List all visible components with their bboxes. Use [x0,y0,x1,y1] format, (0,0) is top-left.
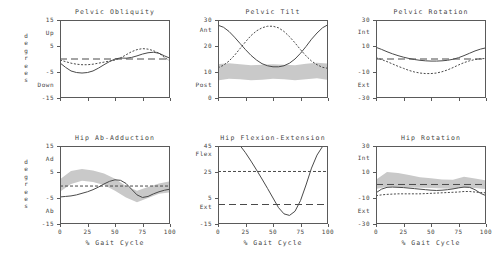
x-axis-title-hip-ab-adduction: % Gait Cycle [60,239,170,247]
x-axis-title-hip-flexion-extension: % Gait Cycle [218,239,328,247]
y-tick-hip-flexion-extension-2 [215,172,218,173]
x-tick-label-hip-ab-adduction-3: 75 [131,228,155,235]
x-tick-hip-flexion-extension-2 [273,224,274,227]
y-tick-label-hip-rotation-0: -30 [340,220,370,227]
subplot-title-pelvic-tilt: Pelvic Tilt [218,8,328,16]
y-tick-hip-ab-adduction-3 [57,146,60,147]
y-direction-label-pos-pelvic-rotation: Int [340,28,370,35]
plot-area-pelvic-obliquity [60,20,170,98]
series-contralateral-side-pelvic-tilt [219,26,327,68]
plot-canvas-pelvic-rotation [377,21,485,97]
y-tick-label-pelvic-tilt-0: 0 [182,94,212,101]
y-tick-label-pelvic-rotation-3: 30 [340,16,370,23]
x-tick-label-hip-rotation-4: 100 [474,228,496,235]
y-tick-label-hip-flexion-extension-0: -15 [182,220,212,227]
x-tick-hip-ab-adduction-0 [60,224,61,227]
x-tick-label-hip-ab-adduction-1: 25 [76,228,100,235]
y-direction-label-neg-pelvic-rotation: Ext [340,81,370,88]
x-tick-pelvic-tilt-2 [273,98,274,101]
y-tick-label-hip-flexion-extension-2: 25 [182,168,212,175]
x-tick-hip-rotation-0 [376,224,377,227]
x-tick-hip-rotation-2 [431,224,432,227]
y-direction-label-pos-hip-rotation: Int [340,154,370,161]
y-tick-label-pelvic-obliquity-3: 15 [24,16,54,23]
plot-area-hip-flexion-extension [218,146,328,224]
series-affected-side-hip-flexion-extension [219,147,327,215]
y-direction-label-neg-hip-rotation: Ext [340,207,370,214]
x-axis-title-hip-rotation: % Gait Cycle [376,239,486,247]
plot-area-hip-rotation [376,146,486,224]
x-tick-label-hip-rotation-2: 50 [419,228,443,235]
plot-area-hip-ab-adduction [60,146,170,224]
y-tick-pelvic-tilt-3 [215,20,218,21]
x-tick-pelvic-tilt-0 [218,98,219,101]
y-axis-group-label: d e g r e e s [22,32,30,84]
y-tick-label-pelvic-tilt-3: 30 [182,16,212,23]
x-tick-hip-rotation-4 [486,224,487,227]
x-tick-label-hip-flexion-extension-4: 100 [316,228,340,235]
x-tick-hip-flexion-extension-1 [246,224,247,227]
y-tick-pelvic-rotation-1 [373,72,376,73]
y-tick-label-hip-ab-adduction-0: -15 [24,220,54,227]
x-tick-pelvic-tilt-1 [246,98,247,101]
x-tick-hip-rotation-3 [459,224,460,227]
plot-canvas-pelvic-obliquity [61,21,169,97]
x-tick-pelvic-rotation-2 [431,98,432,101]
x-tick-label-hip-rotation-0: 0 [364,228,388,235]
subplot-title-hip-ab-adduction: Hip Ab-Adduction [60,134,170,142]
series-affected-side-pelvic-obliquity [61,52,169,73]
x-tick-hip-flexion-extension-4 [328,224,329,227]
x-tick-label-hip-flexion-extension-2: 50 [261,228,285,235]
x-tick-label-hip-flexion-extension-0: 0 [206,228,230,235]
x-tick-label-hip-rotation-1: 25 [392,228,416,235]
y-tick-hip-ab-adduction-1 [57,198,60,199]
y-tick-pelvic-tilt-2 [215,46,218,47]
x-tick-pelvic-rotation-1 [404,98,405,101]
x-tick-pelvic-obliquity-4 [170,98,171,101]
x-tick-hip-ab-adduction-3 [143,224,144,227]
y-tick-hip-ab-adduction-2 [57,172,60,173]
y-tick-pelvic-obliquity-3 [57,20,60,21]
x-tick-label-hip-flexion-extension-1: 25 [234,228,258,235]
x-tick-pelvic-tilt-4 [328,98,329,101]
normative-band-pelvic-tilt [219,63,327,81]
plot-area-pelvic-rotation [376,20,486,98]
y-tick-label-pelvic-tilt-2: 20 [182,42,212,49]
y-tick-hip-rotation-3 [373,146,376,147]
normative-band-hip-rotation [377,172,485,189]
series-contralateral-side-hip-rotation [377,192,485,196]
x-tick-hip-flexion-extension-0 [218,224,219,227]
y-tick-label-pelvic-rotation-1: -10 [340,68,370,75]
y-tick-hip-rotation-1 [373,198,376,199]
subplot-title-hip-flexion-extension: Hip Flexion-Extension [218,134,328,142]
y-tick-label-hip-rotation-3: 30 [340,142,370,149]
x-tick-pelvic-obliquity-1 [88,98,89,101]
normative-band-hip-ab-adduction [61,169,169,202]
subplot-title-hip-rotation: Hip Rotation [376,134,486,142]
x-tick-pelvic-tilt-3 [301,98,302,101]
y-tick-pelvic-rotation-2 [373,46,376,47]
y-tick-label-pelvic-tilt-1: 10 [182,68,212,75]
y-tick-label-hip-rotation-2: 10 [340,168,370,175]
plot-canvas-hip-flexion-extension [219,147,327,223]
y-direction-label-neg-hip-flexion-extension: Ext [182,203,212,210]
y-tick-pelvic-tilt-1 [215,72,218,73]
y-tick-hip-flexion-extension-1 [215,198,218,199]
x-tick-label-hip-flexion-extension-3: 75 [289,228,313,235]
series-contralateral-side-pelvic-obliquity [61,49,169,65]
x-tick-hip-ab-adduction-1 [88,224,89,227]
x-tick-label-hip-ab-adduction-2: 50 [103,228,127,235]
x-tick-label-hip-ab-adduction-0: 0 [48,228,72,235]
x-tick-pelvic-obliquity-2 [115,98,116,101]
y-tick-label-hip-flexion-extension-3: 45 [182,142,212,149]
y-tick-pelvic-obliquity-1 [57,72,60,73]
y-tick-label-hip-rotation-1: -10 [340,194,370,201]
y-tick-label-hip-ab-adduction-3: 15 [24,142,54,149]
x-tick-hip-ab-adduction-2 [115,224,116,227]
plot-canvas-hip-rotation [377,147,485,223]
y-tick-hip-flexion-extension-3 [215,146,218,147]
y-tick-pelvic-obliquity-2 [57,46,60,47]
y-tick-label-hip-flexion-extension-1: 5 [182,194,212,201]
x-tick-hip-rotation-1 [404,224,405,227]
y-tick-label-pelvic-rotation-2: 10 [340,42,370,49]
